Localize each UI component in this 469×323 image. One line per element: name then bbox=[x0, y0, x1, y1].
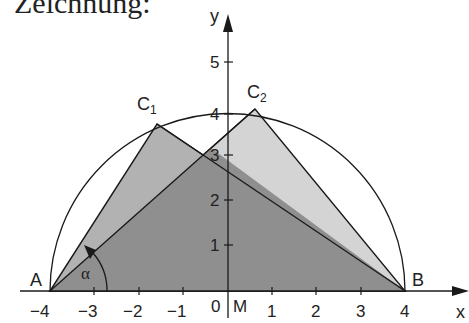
x-tick-label: −3 bbox=[78, 302, 97, 321]
y-axis-arrow bbox=[223, 14, 233, 32]
y-tick-label: 3 bbox=[210, 146, 219, 165]
x-tick-label: −4 bbox=[30, 302, 49, 321]
y-tick-label: 2 bbox=[210, 191, 219, 210]
y-axis-label: y bbox=[210, 6, 219, 26]
angle-alpha-label: α bbox=[81, 264, 90, 283]
point-a-label: A bbox=[30, 270, 42, 290]
x-axis-arrow bbox=[452, 286, 469, 296]
point-m-label: M bbox=[233, 297, 247, 316]
x-tick-label: 3 bbox=[356, 302, 365, 321]
origin-label: 0 bbox=[211, 297, 220, 316]
point-b-label: B bbox=[412, 270, 424, 290]
y-tick-label: 5 bbox=[210, 53, 219, 72]
x-axis-label: x bbox=[456, 302, 465, 322]
point-c1-label: C1 bbox=[137, 94, 157, 117]
y-tick-label: 1 bbox=[210, 236, 219, 255]
point-c2-label: C2 bbox=[247, 82, 267, 105]
x-tick-label: 4 bbox=[400, 302, 409, 321]
x-tick-label: −2 bbox=[123, 302, 142, 321]
diagram-canvas: −4 −3 −2 −1 0 1 2 3 4 x 1 2 3 4 5 y A B … bbox=[0, 0, 469, 323]
x-tick-label: 2 bbox=[311, 302, 320, 321]
x-tick-label: 1 bbox=[267, 302, 276, 321]
y-tick-label: 4 bbox=[210, 105, 219, 124]
x-tick-label: −1 bbox=[167, 302, 186, 321]
